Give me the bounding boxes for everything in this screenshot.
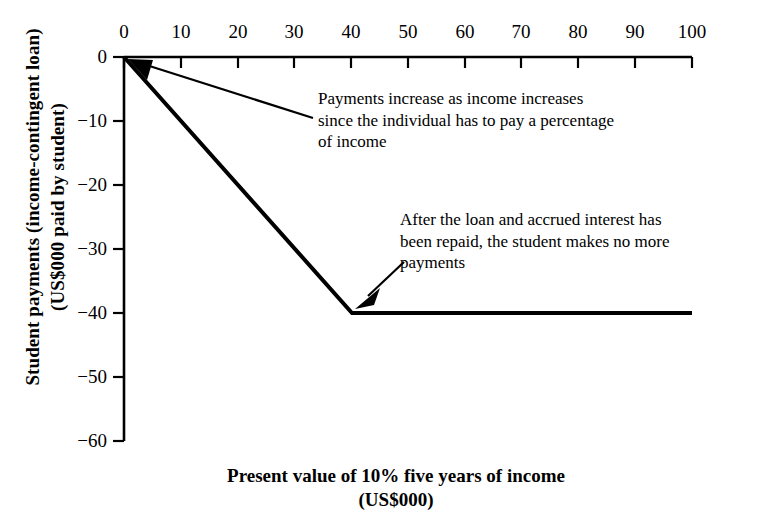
y-axis-ticks bbox=[113, 57, 124, 441]
y-tick-label: −30 bbox=[45, 239, 107, 258]
x-tick-label: 20 bbox=[208, 22, 268, 41]
x-tick-label: 70 bbox=[491, 22, 551, 41]
y-tick-label: −10 bbox=[45, 111, 107, 130]
annotation-2-leader bbox=[355, 262, 404, 309]
y-tick-label: −60 bbox=[45, 431, 107, 450]
x-tick-label: 90 bbox=[605, 22, 665, 41]
annotation-line: After the loan and accrued interest has bbox=[400, 209, 670, 231]
x-axis-ticks bbox=[124, 57, 692, 68]
x-tick-label: 10 bbox=[151, 22, 211, 41]
y-tick-label: −20 bbox=[45, 175, 107, 194]
x-tick-label: 80 bbox=[548, 22, 608, 41]
x-tick-label: 60 bbox=[435, 22, 495, 41]
x-tick-label: 40 bbox=[321, 22, 381, 41]
y-tick-label: 0 bbox=[45, 47, 107, 66]
x-tick-label: 100 bbox=[662, 22, 722, 41]
annotation-line: since the individual has to pay a percen… bbox=[318, 110, 614, 132]
x-tick-label: 50 bbox=[378, 22, 438, 41]
y-tick-label: −50 bbox=[45, 367, 107, 386]
x-tick-label: 0 bbox=[94, 22, 154, 41]
x-axis-title-line-1: Present value of 10% five years of incom… bbox=[96, 464, 696, 488]
chart-figure: Student payments (income-contingent loan… bbox=[0, 0, 765, 527]
annotation-loan-repaid: After the loan and accrued interest has … bbox=[400, 209, 670, 274]
y-tick-label: −40 bbox=[45, 303, 107, 322]
annotation-line: of income bbox=[318, 131, 614, 153]
x-axis-title: Present value of 10% five years of incom… bbox=[96, 464, 696, 512]
annotation-line: payments bbox=[400, 252, 670, 274]
x-tick-label: 30 bbox=[264, 22, 324, 41]
annotation-1-leader bbox=[128, 59, 313, 118]
annotation-line: Payments increase as income increases bbox=[318, 88, 614, 110]
annotation-line: been repaid, the student makes no more bbox=[400, 231, 670, 253]
annotation-payments-increase: Payments increase as income increases si… bbox=[318, 88, 614, 153]
x-axis-title-line-2: (US$000) bbox=[96, 488, 696, 512]
